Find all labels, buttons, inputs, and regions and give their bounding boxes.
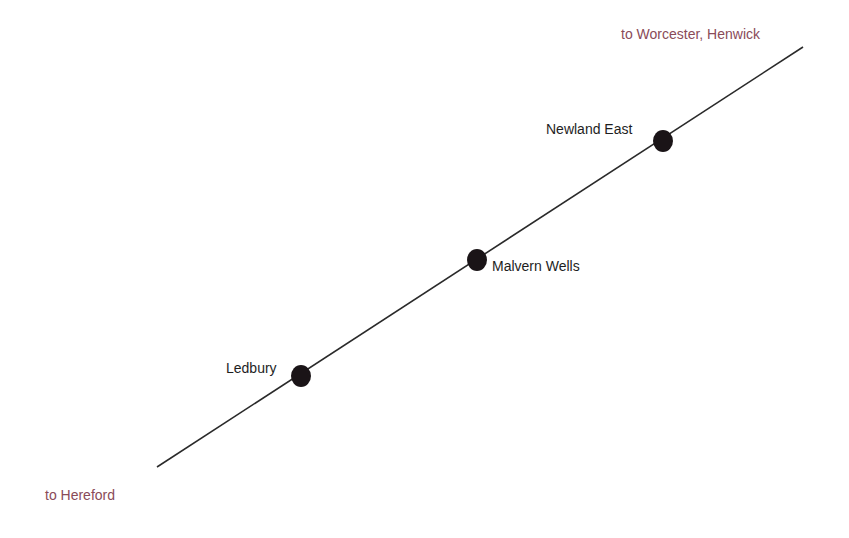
station-dot-ledbury[interactable] bbox=[291, 365, 311, 387]
station-dot-newland-east[interactable] bbox=[653, 130, 673, 152]
station-label-malvern-wells: Malvern Wells bbox=[492, 258, 580, 274]
terminus-label-hereford: to Hereford bbox=[45, 487, 115, 503]
station-label-ledbury: Ledbury bbox=[226, 360, 277, 376]
station-label-newland-east: Newland East bbox=[546, 121, 632, 137]
terminus-label-worcester: to Worcester, Henwick bbox=[621, 26, 760, 42]
route-diagram bbox=[0, 0, 849, 538]
station-dot-malvern-wells[interactable] bbox=[467, 249, 487, 271]
